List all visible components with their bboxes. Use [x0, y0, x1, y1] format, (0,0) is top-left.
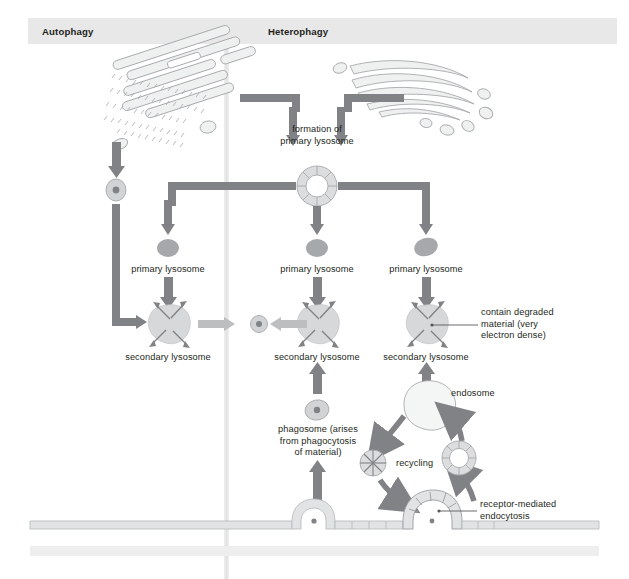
- membrane-to-phagosome-arrow: [309, 460, 326, 505]
- recycling-to-membrane-arrow: [380, 480, 404, 503]
- endosome-icon: [404, 381, 456, 430]
- autophagosome-icon: [106, 179, 126, 201]
- panel-divider-core: [226, 44, 228, 579]
- contain-degraded-leader-dot: [430, 323, 433, 326]
- diagram-canvas: Autophagy Heterophagy formation of prima…: [0, 0, 629, 579]
- phagosome-icon: [303, 398, 331, 423]
- phagosome-to-secondary-arrow: [309, 362, 326, 394]
- label-receptor-mediated-endocytosis: receptor-mediated endocytosis: [480, 499, 620, 522]
- distribution-right-arrow: [338, 182, 433, 235]
- lysosome-pathway-diagram: [0, 0, 629, 579]
- distribution-middle-arrow: [310, 206, 324, 235]
- receptor-mediated-leader-dot: [437, 509, 440, 512]
- primary-to-secondary-arrow-right: [418, 277, 435, 309]
- primary-to-secondary-arrow-left: [160, 277, 177, 309]
- label-endosome: endosome: [451, 388, 531, 400]
- label-secondary-lysosome-right: secondary lysosome: [369, 352, 483, 364]
- secondary-lysosome-icon: [148, 301, 190, 348]
- panel-header-autophagy: Autophagy: [42, 26, 93, 37]
- primary-lysosome-icon: [306, 239, 328, 257]
- label-formation-of-primary-lysosome: formation of primary lysosome: [257, 124, 377, 147]
- label-secondary-lysosome-mid: secondary lysosome: [260, 352, 374, 364]
- label-secondary-lysosome-left: secondary lysosome: [111, 352, 225, 364]
- residual-body-icon: [251, 316, 268, 333]
- label-primary-lysosome-mid: primary lysosome: [267, 264, 367, 276]
- label-primary-lysosome-left: primary lysosome: [118, 264, 218, 276]
- secondary-to-residual-arrow-left: [198, 317, 235, 331]
- label-recycling: recycling: [396, 458, 466, 470]
- label-contain-degraded-material: contain degraded material (very electron…: [481, 307, 611, 342]
- secondary-lysosome-icon: [406, 301, 448, 348]
- primary-lysosome-icon: [412, 235, 440, 260]
- panel-header-heterophagy: Heterophagy: [268, 26, 328, 37]
- label-primary-lysosome-right: primary lysosome: [376, 264, 476, 276]
- primary-lysosome-icon: [157, 239, 179, 257]
- vesicle-to-endosome-arrow: [449, 414, 462, 441]
- primary-to-secondary-arrow-mid: [309, 277, 326, 309]
- coated-vesicle-icon: [297, 166, 337, 206]
- label-phagosome: phagosome (arises from phagocytosis of m…: [253, 424, 383, 459]
